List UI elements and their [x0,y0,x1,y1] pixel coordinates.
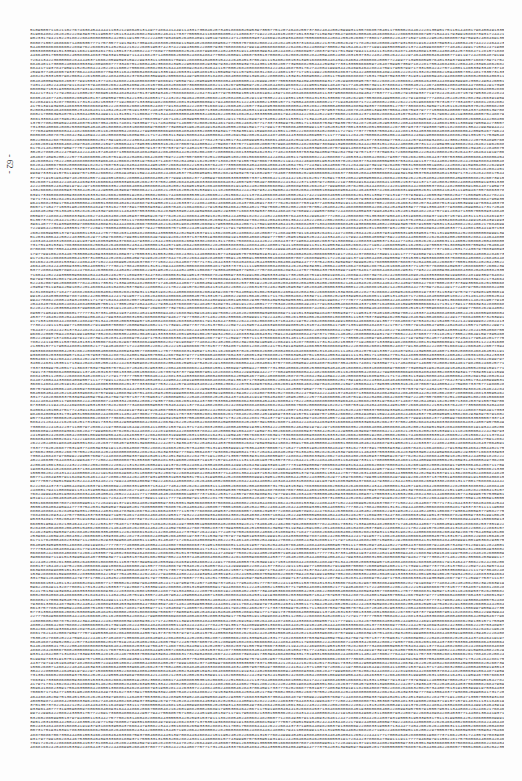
digit-line: 4868166242048815339224864437102244869952… [30,745,504,749]
document-page: - 62 - 510950571162110276746384544444110… [0,0,522,781]
page-number: - 62 - [0,156,22,172]
digit-text-block: 5109505711621102767463845444441103212986… [30,28,504,750]
